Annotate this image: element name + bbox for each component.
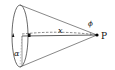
- point-p: [95, 33, 98, 36]
- label-p: P: [101, 31, 107, 41]
- cone-diagram: x ϕ P α: [0, 0, 115, 70]
- cone-bottom-edge: [20, 35, 97, 67]
- label-x: x: [58, 26, 63, 35]
- cone-axis-line: [22, 35, 97, 36]
- label-phi: ϕ: [88, 20, 93, 28]
- label-alpha: α: [14, 49, 20, 58]
- right-angle-marker: [28, 34, 31, 38]
